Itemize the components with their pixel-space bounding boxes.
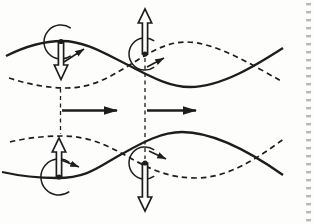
page-edge-dash xyxy=(306,67,311,69)
wave-vortex-diagram xyxy=(0,0,314,224)
page-edge-dash xyxy=(306,11,311,13)
page-edge-dash xyxy=(306,203,311,205)
top-center-vortex-point xyxy=(142,51,147,56)
page-edge-dash xyxy=(306,187,311,189)
page-edge-dash xyxy=(306,51,311,53)
page-edge-dash xyxy=(306,139,311,141)
page-edge-dash xyxy=(306,171,311,173)
diagram-canvas xyxy=(0,0,314,224)
page-edge-dash xyxy=(306,123,311,125)
top-left-vortex-point xyxy=(58,39,63,44)
page-edge-dash xyxy=(306,83,311,85)
bottom-left-vortex-point xyxy=(56,174,61,179)
page-edge-dash xyxy=(306,35,311,37)
page-edge-dash xyxy=(306,115,311,117)
page-edge-dash xyxy=(306,99,311,101)
page-edge-dash xyxy=(306,219,311,221)
page-edge-dash xyxy=(306,195,311,197)
page-edge-dash xyxy=(306,147,311,149)
page-edge-dash xyxy=(306,75,311,77)
page-edge-dash xyxy=(306,211,311,213)
page-edge-dash xyxy=(306,91,311,93)
page-edge-dash xyxy=(306,3,311,5)
page-edge-dash xyxy=(306,19,311,21)
page-edge-dash xyxy=(306,163,311,165)
page-edge-dash xyxy=(306,131,311,133)
page-edge-dash xyxy=(306,107,311,109)
bottom-center-vortex-point xyxy=(142,160,147,165)
page-edge-dash xyxy=(306,59,311,61)
page-edge-dash xyxy=(306,27,311,29)
page-edge-dash xyxy=(306,43,311,45)
page-edge-dash xyxy=(306,179,311,181)
page-edge-dash xyxy=(306,155,311,157)
